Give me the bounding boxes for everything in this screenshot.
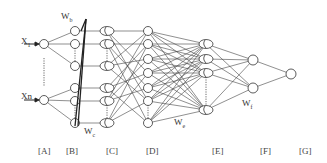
- weight-wc-label: Wc: [84, 126, 95, 138]
- layer-a-label: [A]: [38, 146, 51, 156]
- weight-wf-label: Wf: [242, 98, 253, 110]
- neurons: [40, 27, 297, 128]
- weight-we-label: We: [174, 117, 185, 129]
- layer-f-label: [F]: [260, 146, 271, 156]
- layer-c-label: [C]: [106, 146, 118, 156]
- network-graph: [0, 0, 327, 163]
- input-xn-label: Xn: [21, 91, 32, 103]
- weight-wb-label: Wb: [61, 11, 73, 23]
- input-x1-label: X1: [21, 36, 31, 48]
- neural-network-diagram: X1 Xn Wb Wc We Wf [A] [B] [C] [D] [E] [F…: [0, 0, 327, 163]
- layer-b-label: [B]: [66, 146, 78, 156]
- layer-d-label: [D]: [146, 146, 159, 156]
- layer-e-label: [E]: [212, 146, 224, 156]
- layer-g-label: [G]: [299, 146, 312, 156]
- ellipsis-dots: [44, 48, 206, 119]
